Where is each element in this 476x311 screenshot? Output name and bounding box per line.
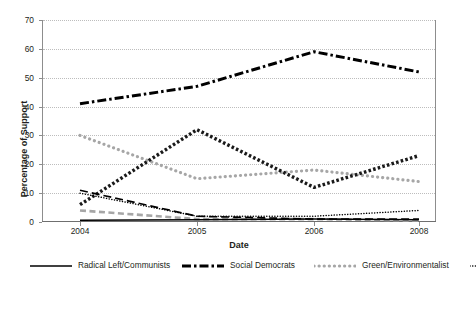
plot-area: 010203040506070 2004200520062008: [42, 20, 436, 222]
legend-item: Social Democrats: [182, 258, 314, 273]
legend-label: Green/Environmentalist: [362, 261, 449, 270]
chart-container: Percentage of Support 010203040506070 20…: [0, 0, 476, 311]
y-tick-label: 10: [8, 189, 34, 197]
series-line: [80, 130, 419, 205]
legend-item: Conservatives: [470, 258, 476, 273]
y-tick-label: 0: [8, 218, 34, 226]
y-tick-label: 60: [8, 45, 34, 53]
legend-swatch: [182, 261, 224, 271]
y-tick-label: 30: [8, 131, 34, 139]
legend-swatch: [30, 261, 72, 271]
x-tick-label: 2004: [57, 226, 103, 236]
y-tick-label: 50: [8, 74, 34, 82]
legend-label: Social Democrats: [230, 261, 295, 270]
legend-item: Green/Environmentalist: [314, 258, 470, 273]
series-lines: [42, 20, 436, 222]
legend-item: Radical Left/Communists: [30, 258, 182, 273]
x-tick-label: 2005: [174, 226, 220, 236]
x-axis-title: Date: [42, 240, 436, 250]
y-tick-label: 40: [8, 103, 34, 111]
x-tick-label: 2008: [396, 226, 442, 236]
y-axis-title-wrapper: Percentage of Support: [8, 50, 22, 190]
x-tick-label: 2006: [291, 226, 337, 236]
y-axis-title: Percentage of Support: [19, 79, 29, 219]
chart-legend: Radical Left/CommunistsSocial DemocratsG…: [30, 258, 470, 273]
legend-swatch: [470, 261, 476, 271]
series-line: [80, 193, 419, 216]
legend-swatch: [314, 261, 356, 271]
series-line: [80, 135, 419, 181]
legend-label: Radical Left/Communists: [78, 261, 170, 270]
y-tick-label: 20: [8, 160, 34, 168]
series-line: [80, 52, 419, 104]
y-tick-label: 70: [8, 16, 34, 24]
